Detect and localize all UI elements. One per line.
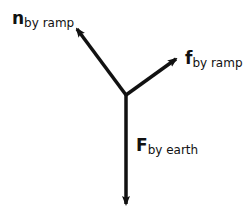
normal-force-symbol: n bbox=[12, 8, 24, 28]
friction-force-subscript: by ramp bbox=[192, 56, 242, 70]
gravity-force-subscript: by earth bbox=[148, 143, 199, 157]
gravity-force-symbol: F bbox=[136, 135, 148, 155]
friction-force-arrow bbox=[126, 59, 176, 95]
normal-force-subscript: by ramp bbox=[24, 16, 74, 30]
normal-force-arrow bbox=[77, 29, 126, 95]
free-body-diagram bbox=[0, 0, 249, 217]
normal-force-label: nby ramp bbox=[12, 10, 74, 27]
gravity-force-label: Fby earth bbox=[136, 137, 198, 154]
friction-force-label: fby ramp bbox=[185, 50, 243, 67]
